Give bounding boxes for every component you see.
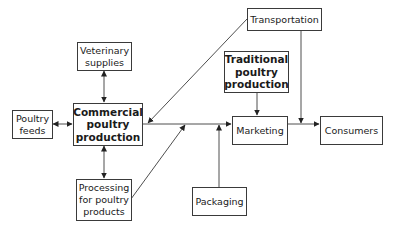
node-marketing: Marketing xyxy=(232,116,288,145)
node-traditional-poultry-production: Traditional poultry production xyxy=(224,51,289,93)
node-commercial-poultry-production: Commercial poultry production xyxy=(73,103,143,146)
node-label: Processing for poultry products xyxy=(79,182,130,218)
node-label: Poultry feeds xyxy=(16,113,49,137)
node-label: Commercial poultry production xyxy=(73,106,143,144)
node-label: Packaging xyxy=(195,196,243,208)
node-label: Consumers xyxy=(325,125,378,137)
node-label: Marketing xyxy=(236,125,283,137)
node-label: Veterinary supplies xyxy=(80,45,129,69)
node-transportation: Transportation xyxy=(247,8,322,31)
node-veterinary-supplies: Veterinary supplies xyxy=(77,42,132,71)
node-label: Traditional poultry production xyxy=(224,53,288,91)
node-processing-for-poultry-products: Processing for poultry products xyxy=(76,179,132,221)
node-packaging: Packaging xyxy=(192,187,247,216)
node-label: Transportation xyxy=(250,14,319,26)
node-poultry-feeds: Poultry feeds xyxy=(12,110,53,139)
node-consumers: Consumers xyxy=(320,116,383,145)
